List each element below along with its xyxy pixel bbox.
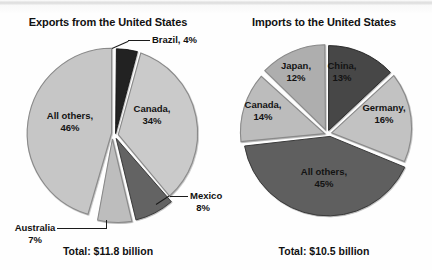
exports-leader-mexico-horizontal: [170, 196, 188, 197]
imports-chart-title: Imports to the United States: [216, 16, 432, 28]
imports-pie-figure: [238, 42, 418, 222]
exports-label-australia-line2: 7%: [28, 234, 42, 245]
exports-total-label: Total: $11.8 billion: [0, 245, 216, 257]
exports-label-australia-line1: Australia: [15, 222, 56, 233]
exports-label-mexico: Mexico 8%: [190, 190, 216, 213]
imports-pie-svg: [238, 42, 418, 222]
exports-leader-australia-tick: [106, 220, 107, 229]
exports-slice-all-others: [27, 48, 111, 214]
exports-label-mexico-line2: 8%: [196, 202, 210, 213]
exports-pie-svg: [23, 45, 203, 225]
imports-chart-panel: Imports to the United States: [216, 0, 432, 270]
imports-total-label: Total: $10.5 billion: [216, 245, 432, 257]
exports-label-brazil: Brazil, 4%: [152, 34, 197, 46]
exports-pie-figure: [23, 45, 203, 225]
exports-leader-australia-horizontal: [57, 228, 107, 229]
exports-label-australia: Australia 7%: [13, 222, 57, 245]
exports-chart-panel: Exports from the United States: [0, 0, 216, 270]
exports-label-brazil-text: Brazil, 4%: [152, 34, 197, 45]
exports-leader-brazil-horizontal: [128, 40, 150, 41]
exports-chart-title: Exports from the United States: [0, 16, 216, 28]
